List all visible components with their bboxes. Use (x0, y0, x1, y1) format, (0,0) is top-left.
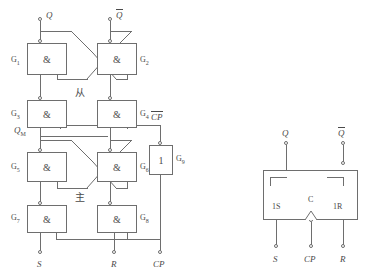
symbol-label-r: R (340, 255, 346, 264)
gate-g7-symbol: & (43, 214, 51, 225)
terminal-r-in (112, 250, 116, 254)
label-master-chinese: 主 (75, 193, 85, 203)
symbol-label-qbar: Q (338, 129, 345, 138)
symbol-terminal-q (284, 141, 288, 145)
gate-g8: & (97, 205, 137, 233)
bubble-g3-output (38, 96, 42, 100)
gate-g3-symbol: & (43, 109, 51, 120)
gate-g2-name: G2 (140, 56, 149, 66)
bubble-g9-output (158, 141, 162, 145)
symbol-output-bracket-q (270, 177, 287, 186)
gate-g5: & (27, 152, 67, 182)
bubble-g7-output (38, 201, 42, 205)
gate-g9-name: G9 (176, 155, 185, 165)
bubble-g8-output (108, 201, 112, 205)
label-q-out: Q (46, 11, 53, 20)
bubble-g2-output (108, 39, 112, 43)
label-r-in: R (111, 260, 117, 269)
gate-g6-symbol: & (113, 162, 121, 173)
label-qbar-out: Q (116, 11, 123, 20)
terminal-cp-in (158, 250, 162, 254)
wire-cp-to-g8 (127, 233, 128, 240)
symbol-clock-triangle-icon (303, 208, 319, 221)
bubble-g6-output (108, 148, 112, 152)
terminal-qbar-out (108, 17, 112, 21)
bubble-g5-output (38, 148, 42, 152)
wire-cp-to-g7 (56, 233, 57, 240)
gate-g3-name: G3 (11, 110, 20, 120)
gate-g7-name: G7 (11, 214, 20, 224)
gate-g9-symbol: 1 (159, 155, 164, 166)
gate-g1-name: G1 (11, 56, 20, 66)
terminal-s-in (38, 250, 42, 254)
gate-g2: & (97, 43, 137, 75)
gate-g9: 1 (149, 145, 173, 175)
symbol-wire-qbar (343, 145, 344, 162)
gate-g7: & (27, 205, 67, 233)
symbol-pin-1r: 1R (333, 203, 342, 211)
symbol-wire-q (286, 145, 287, 170)
gate-g5-name: G5 (11, 163, 20, 173)
bubble-g1-output (38, 39, 42, 43)
label-slave-chinese: 从 (75, 88, 85, 98)
wire-cp-bus (56, 239, 161, 240)
symbol-pin-1s: 1S (272, 203, 280, 211)
label-cp-in: CP (153, 260, 165, 269)
symbol-terminal-r (341, 244, 345, 248)
symbol-terminal-s (274, 244, 278, 248)
symbol-wire-s (276, 220, 277, 246)
label-qm: QM (14, 126, 26, 137)
symbol-wire-r (343, 220, 344, 246)
gate-g1: & (27, 43, 67, 75)
bubble-g4-output (108, 96, 112, 100)
gate-g1-symbol: & (43, 54, 51, 65)
gate-g6-name: G6 (140, 163, 149, 173)
figure-canvas: Q Q & G1 & G2 & G3 (0, 0, 372, 273)
gate-g3: & (27, 100, 67, 128)
symbol-bubble-qbar (341, 161, 345, 165)
terminal-q-out (38, 17, 42, 21)
label-cp-bar: CP (151, 113, 163, 122)
symbol-label-cp: CP (304, 255, 316, 264)
symbol-wire-cp (311, 222, 312, 246)
gate-g5-symbol: & (43, 162, 51, 173)
symbol-pin-c: C (308, 196, 313, 204)
symbol-label-s: S (273, 255, 278, 264)
gate-g4-name: G4 (140, 110, 149, 120)
label-s-in: S (37, 260, 42, 269)
gate-g2-symbol: & (113, 54, 121, 65)
gate-g8-name: G8 (140, 214, 149, 224)
gate-g4-symbol: & (113, 109, 121, 120)
gate-g6: & (97, 152, 137, 182)
symbol-terminal-qbar (341, 141, 345, 145)
gate-g8-symbol: & (113, 214, 121, 225)
symbol-output-bracket-qbar (327, 177, 344, 186)
symbol-terminal-cp (309, 244, 313, 248)
gate-g4: & (97, 100, 137, 128)
symbol-label-q: Q (282, 129, 289, 138)
